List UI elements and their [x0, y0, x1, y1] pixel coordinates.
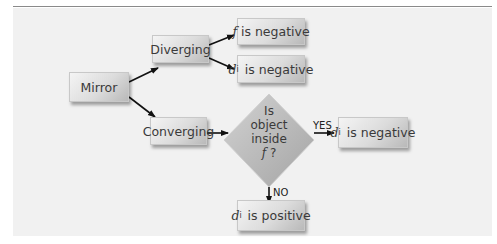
decision-text: Is object inside f ? — [236, 104, 302, 160]
i-subscript: i — [239, 211, 241, 220]
node-mirror: Mirror — [69, 72, 129, 102]
node-f-negative-label: is negative — [237, 24, 310, 39]
decision-line-1: Is — [236, 104, 302, 118]
i-subscript: i — [237, 65, 239, 74]
node-di-positive: di is positive — [237, 200, 305, 231]
node-di-negative-converging-label: is negative — [343, 125, 416, 140]
node-f-negative: f is negative — [237, 18, 305, 45]
question-mark: ? — [266, 146, 276, 160]
decision-line-4: f ? — [236, 146, 302, 160]
decision-line-3: inside — [236, 132, 302, 146]
i-subscript: i — [339, 128, 341, 137]
node-diverging-label: Diverging — [150, 42, 210, 57]
node-di-negative-converging: di is negative — [338, 117, 408, 148]
decision-line-2: object — [236, 118, 302, 132]
node-converging: Converging — [150, 117, 207, 145]
node-diverging: Diverging — [152, 35, 209, 63]
node-converging-label: Converging — [143, 124, 215, 139]
node-di-positive-label: is positive — [244, 208, 311, 223]
node-mirror-label: Mirror — [81, 80, 118, 95]
edge-label-no: NO — [273, 187, 288, 198]
node-di-negative-diverging-label: is negative — [241, 62, 314, 77]
node-di-negative-diverging: di is negative — [237, 55, 305, 83]
d-variable: d — [331, 125, 339, 140]
d-variable: d — [231, 208, 239, 223]
d-variable: d — [229, 62, 237, 77]
edge-label-yes: YES — [313, 120, 332, 131]
